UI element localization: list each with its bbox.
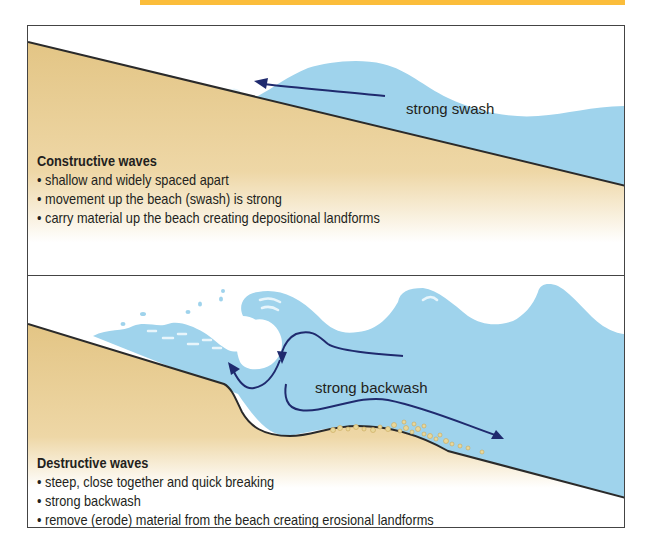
spray-droplets (121, 289, 226, 326)
arrowhead-icon (254, 78, 268, 89)
destructive-bullet: strong backwash (37, 492, 434, 511)
strong-swash-label: strong swash (406, 100, 494, 117)
destructive-title: Destructive waves (37, 454, 434, 473)
destructive-bullet: remove (erode) material from the beach c… (37, 511, 434, 528)
header-strip (140, 0, 625, 5)
destructive-caption: Destructive waves steep, close together … (37, 454, 434, 528)
destructive-waves-panel: strong backwash Destructive waves steep,… (27, 275, 625, 528)
strong-backwash-label: strong backwash (315, 379, 428, 396)
constructive-title: Constructive waves (37, 152, 380, 171)
constructive-bullet: movement up the beach (swash) is strong (37, 190, 380, 209)
constructive-waves-panel: strong swash Constructive waves shallow … (27, 25, 625, 277)
destructive-bullet: steep, close together and quick breaking (37, 473, 434, 492)
constructive-bullet: shallow and widely spaced apart (37, 171, 380, 190)
constructive-caption: Constructive waves shallow and widely sp… (37, 152, 380, 228)
constructive-bullet: carry material up the beach creating dep… (37, 209, 380, 228)
